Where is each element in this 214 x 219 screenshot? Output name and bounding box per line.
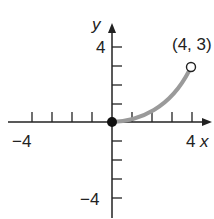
- x-min-label: −4: [12, 132, 31, 151]
- y-axis-label: y: [91, 15, 102, 34]
- x-max-label: 4: [186, 132, 195, 151]
- y-axis-arrow-icon: [108, 23, 116, 33]
- y-max-label: 4: [96, 38, 105, 57]
- y-min-label: −4: [80, 190, 99, 209]
- x-axis-arrow-icon: [202, 118, 212, 126]
- x-axis-label: x: [199, 132, 209, 151]
- function-curve: [112, 71, 189, 122]
- graph: y 4 −4 −4 4 x (4, 3): [0, 0, 214, 219]
- endpoint-annotation: (4, 3): [172, 35, 212, 54]
- open-endpoint-dot: [187, 63, 196, 72]
- closed-endpoint-dot: [107, 117, 117, 127]
